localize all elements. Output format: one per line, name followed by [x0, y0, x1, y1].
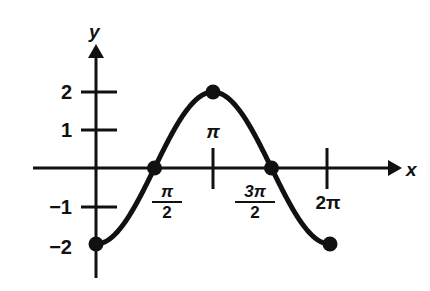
x-axis-label: x [406, 160, 417, 179]
y-tick-label-neg-2: −2 [28, 237, 72, 257]
y-axis-label: y [89, 22, 100, 41]
pi-over-2-denominator: 2 [152, 201, 182, 223]
point-pi-2 [206, 85, 221, 100]
graph-figure: y x 2 1 −1 −2 π 2 π 3π 2 2π [0, 0, 430, 291]
x-axis [33, 160, 402, 176]
pi-over-2-numerator: π [152, 183, 182, 201]
x-tick-label-two-pi: 2π [310, 193, 346, 212]
x-tick-label-pi: π [203, 122, 223, 141]
x-tick-label-pi-over-2: π 2 [152, 183, 182, 223]
y-tick-label-1: 1 [40, 120, 72, 140]
x-tick-label-three-pi-over-2: 3π 2 [235, 183, 275, 223]
point-0-neg2 [89, 237, 104, 252]
point-2pi-neg2 [323, 237, 338, 252]
point-3pi-over-2-0 [264, 161, 279, 176]
y-axis-ticks [81, 92, 117, 207]
three-pi-over-2-numerator: 3π [235, 183, 275, 201]
y-tick-label-neg-1: −1 [28, 197, 72, 217]
three-pi-over-2-denominator: 2 [235, 201, 275, 223]
point-pi-over-2-0 [147, 161, 162, 176]
y-tick-label-2: 2 [40, 82, 72, 102]
